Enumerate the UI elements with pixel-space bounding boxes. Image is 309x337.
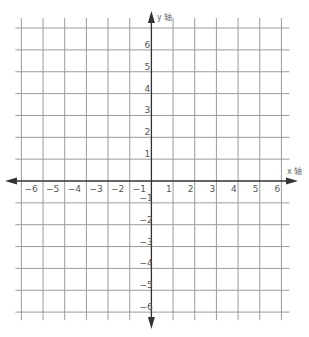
- x-axis-right-arrow-icon: [286, 178, 298, 185]
- y-tick-label: −5: [139, 280, 152, 290]
- x-tick-label: −6: [24, 184, 38, 194]
- x-tick-label: −2: [111, 184, 124, 194]
- x-axis-left-arrow-icon: [5, 178, 17, 185]
- y-tick-label: −6: [139, 302, 153, 312]
- tick-labels: −6−5−4−3−2−1123456−6−5−4−3−2−1123456: [24, 40, 280, 312]
- y-axis-label: y 轴: [157, 12, 172, 22]
- x-axis-label: x 轴: [287, 166, 302, 176]
- x-tick-label: 1: [166, 184, 172, 194]
- grid-lines: [15, 18, 289, 320]
- y-axis-top-arrow-icon: [148, 11, 155, 23]
- y-tick-label: 2: [144, 127, 150, 137]
- x-tick-label: −4: [68, 184, 82, 194]
- y-tick-label: −1: [139, 193, 152, 203]
- x-tick-label: 4: [231, 184, 237, 194]
- x-tick-label: 6: [274, 184, 280, 194]
- x-tick-label: 3: [209, 184, 215, 194]
- y-tick-label: −2: [139, 215, 152, 225]
- y-axis-bottom-arrow-icon: [148, 317, 155, 329]
- y-tick-label: −3: [139, 237, 152, 247]
- coordinate-plane: −6−5−4−3−2−1123456−6−5−4−3−2−1123456 y 轴…: [0, 0, 309, 337]
- y-tick-label: 4: [144, 84, 150, 94]
- x-tick-label: 5: [253, 184, 259, 194]
- y-tick-label: 6: [144, 40, 150, 50]
- x-tick-label: 2: [188, 184, 194, 194]
- y-tick-label: −4: [139, 258, 153, 268]
- y-tick-label: 1: [144, 149, 150, 159]
- y-tick-label: 5: [144, 62, 150, 72]
- x-tick-label: −3: [89, 184, 102, 194]
- y-tick-label: 3: [144, 105, 150, 115]
- x-tick-label: −5: [46, 184, 59, 194]
